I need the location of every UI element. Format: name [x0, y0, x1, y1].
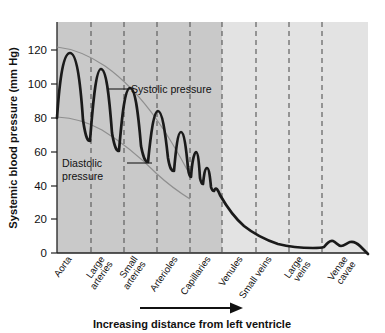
x-axis-caption: Increasing distance from left ventricle: [93, 318, 291, 330]
x-label-arterioles: Arterioles: [147, 254, 179, 294]
diastolic-annotation-label-line1: Diastolic: [62, 157, 103, 169]
x-label-small-arteries: Small arteries: [117, 254, 148, 292]
y-tick-labels: 120 100 80 60 40 20 0: [28, 44, 47, 259]
x-label-venules: Venules: [216, 254, 245, 288]
x-label-large-arteries: Large arteries: [84, 254, 115, 292]
y-tick-label-40: 40: [34, 180, 47, 192]
y-tick-label-60: 60: [34, 146, 47, 158]
y-tick-label-120: 120: [28, 44, 47, 56]
venous-shading-band: [222, 22, 368, 253]
arrow-head-icon: [230, 303, 243, 314]
x-label-aorta: Aorta: [51, 253, 74, 279]
y-tick-label-100: 100: [28, 78, 47, 90]
x-label-large-veins: Large veins: [282, 254, 313, 284]
y-axis-title: Systemic blood pressure (mm Hg): [7, 47, 19, 229]
y-tick-label-80: 80: [34, 112, 47, 124]
y-tick-label-0: 0: [41, 247, 47, 259]
blood-pressure-chart: 120 100 80 60 40 20 0 Systemic blood pre…: [0, 0, 385, 333]
x-label-capillaries: Capillaries: [178, 254, 213, 297]
x-category-labels: Aorta Large arteries Small arteries Arte…: [51, 253, 357, 300]
diastolic-annotation-label-line2: pressure: [62, 170, 103, 182]
y-tick-label-20: 20: [34, 213, 47, 225]
systolic-annotation-label: Systolic pressure: [131, 83, 212, 95]
plot-background: [57, 22, 368, 253]
x-label-venae-cavae: Venae cavae: [325, 254, 358, 286]
y-tick-marks: [51, 50, 57, 253]
direction-arrow: [140, 303, 243, 314]
chart-svg: 120 100 80 60 40 20 0 Systemic blood pre…: [0, 0, 385, 333]
